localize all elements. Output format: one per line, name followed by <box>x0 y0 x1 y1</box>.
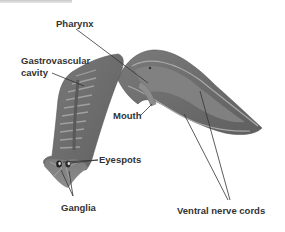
label-ganglia: Ganglia <box>61 202 96 213</box>
pharynx-dot <box>149 67 151 69</box>
planarian-illustration <box>0 0 285 232</box>
label-eyespots: Eyespots <box>99 154 141 165</box>
label-pharynx: Pharynx <box>56 18 94 29</box>
label-ventral-nerve-cords: Ventral nerve cords <box>177 205 265 216</box>
label-gastrovascular-line2: cavity <box>21 67 48 78</box>
label-mouth: Mouth <box>113 110 142 121</box>
label-gastrovascular-line1: Gastrovascular <box>21 55 90 66</box>
